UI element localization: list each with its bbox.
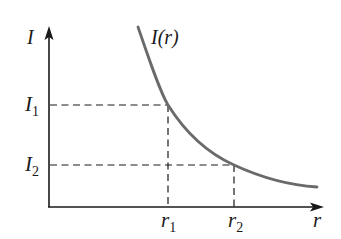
y-tick-i2: I2 <box>24 152 39 179</box>
intensity-curve <box>138 27 317 187</box>
x-tick-r2: r2 <box>228 208 243 235</box>
intensity-diagram: I I(r) I1 I2 r1 r2 r <box>0 0 341 239</box>
guide-lines <box>50 105 234 207</box>
x-axis-label: r <box>313 208 322 232</box>
x-tick-r1: r1 <box>161 208 176 235</box>
y-axis-label: I <box>26 26 35 48</box>
y-tick-i1: I1 <box>24 92 39 119</box>
curve-label: I(r) <box>150 26 179 49</box>
